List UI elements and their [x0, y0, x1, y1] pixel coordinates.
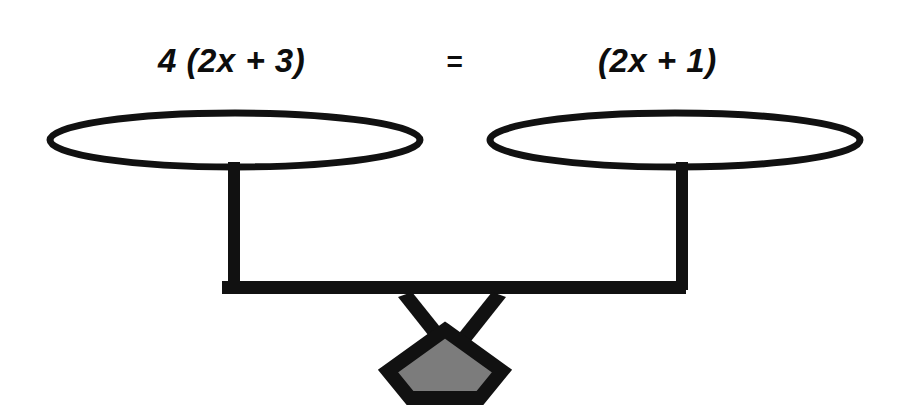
balance-scale-graphic — [0, 0, 912, 413]
diagram-canvas: 4 (2x + 3) = (2x + 1) — [0, 0, 912, 413]
balance-beam-icon — [222, 281, 686, 294]
left-post-icon — [228, 162, 240, 290]
pentagon-base-icon — [388, 330, 502, 398]
right-post-icon — [676, 162, 688, 290]
right-pan-icon — [490, 113, 860, 167]
left-pan-icon — [50, 113, 420, 167]
